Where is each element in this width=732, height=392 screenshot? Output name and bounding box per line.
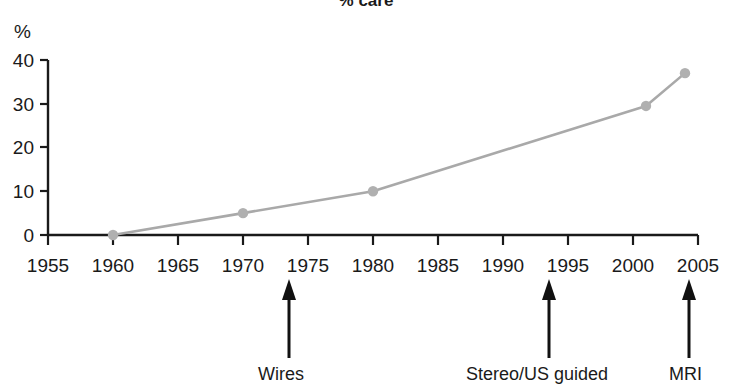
x-tick-label-1965: 1965 xyxy=(157,255,199,276)
annotation-label-stereo-us-guided: Stereo/US guided xyxy=(466,364,608,384)
annotation-arrow-mri xyxy=(682,279,696,358)
chart-figure: % care % 40 30 20 10 0 xyxy=(0,0,732,392)
data-point-2001 xyxy=(641,101,651,111)
x-tick-label-2005: 2005 xyxy=(677,255,719,276)
y-tick-label-40: 40 xyxy=(13,50,34,71)
x-tick-label-1980: 1980 xyxy=(352,255,394,276)
x-axis-ticks xyxy=(48,235,698,245)
line-chart-canvas: % care % 40 30 20 10 0 xyxy=(0,0,732,392)
annotation-label-wires: Wires xyxy=(258,364,304,384)
data-series-line xyxy=(113,73,685,235)
x-tick-label-1960: 1960 xyxy=(92,255,134,276)
annotation-label-mri: MRI xyxy=(669,364,702,384)
x-tick-label-2000: 2000 xyxy=(612,255,654,276)
data-point-1980 xyxy=(368,186,378,196)
x-tick-label-1955: 1955 xyxy=(27,255,69,276)
annotation-arrow-wires xyxy=(282,279,296,358)
x-tick-label-1970: 1970 xyxy=(222,255,264,276)
data-point-1960 xyxy=(108,230,118,240)
y-tick-label-10: 10 xyxy=(13,181,34,202)
data-point-1970 xyxy=(238,208,248,218)
y-tick-label-20: 20 xyxy=(13,137,34,158)
x-tick-label-1985: 1985 xyxy=(417,255,459,276)
y-tick-label-0: 0 xyxy=(23,225,34,246)
annotation-arrow-stereo-us-guided xyxy=(542,279,556,358)
data-point-2004 xyxy=(680,68,690,78)
y-tick-label-30: 30 xyxy=(13,94,34,115)
data-point-markers xyxy=(108,68,690,240)
x-tick-label-1995: 1995 xyxy=(547,255,589,276)
x-tick-label-1990: 1990 xyxy=(482,255,524,276)
x-tick-label-1975: 1975 xyxy=(287,255,329,276)
y-axis-unit-label: % xyxy=(14,21,31,42)
chart-title: % care xyxy=(339,0,394,10)
